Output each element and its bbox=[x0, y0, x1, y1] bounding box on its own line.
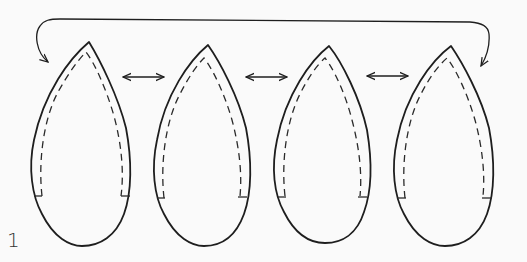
panel-2 bbox=[154, 45, 250, 246]
panel-3-outline bbox=[274, 46, 371, 243]
curved-join-arrow bbox=[37, 19, 489, 66]
panel-4-outline bbox=[394, 46, 493, 246]
panel-1-outline bbox=[31, 42, 130, 246]
panel-3 bbox=[274, 46, 371, 243]
panel-4 bbox=[394, 46, 493, 246]
panel-1-seam bbox=[41, 52, 123, 196]
pattern-diagram bbox=[0, 0, 527, 262]
panel-2-seam bbox=[163, 58, 241, 198]
step-number: 1 bbox=[7, 228, 20, 252]
panel-2-outline bbox=[154, 45, 250, 246]
panel-4-seam bbox=[404, 58, 484, 198]
panel-1 bbox=[31, 42, 130, 246]
